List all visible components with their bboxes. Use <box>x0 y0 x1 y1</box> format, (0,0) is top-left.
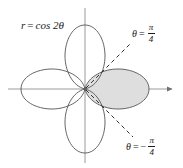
angle-upper-equals: = <box>139 28 145 39</box>
angle-upper-denominator: 4 <box>148 35 155 44</box>
angle-lower-sign: − <box>141 141 147 152</box>
angle-lower-fraction: π4 <box>148 136 155 157</box>
equation-lhs: r <box>21 19 25 31</box>
angle-upper-numerator: π <box>148 23 155 32</box>
angle-lower-denominator: 4 <box>148 148 155 157</box>
angle-lower-equals: = <box>133 141 139 152</box>
angle-upper-theta: θ <box>132 28 137 39</box>
equation-label: r=cos 2θ <box>21 20 64 31</box>
angle-lower-label: θ=−π4 <box>126 137 155 158</box>
shaded-sector-region <box>85 69 149 109</box>
equation-equals: = <box>27 19 33 31</box>
polar-rose-figure: r=cos 2θ θ=π4 θ=−π4 <box>0 0 183 168</box>
angle-lower-numerator: π <box>148 136 155 145</box>
angle-upper-fraction: π4 <box>148 23 155 44</box>
angle-upper-label: θ=π4 <box>132 24 155 45</box>
equation-rhs: cos 2θ <box>36 19 64 31</box>
angle-lower-theta: θ <box>126 141 131 152</box>
